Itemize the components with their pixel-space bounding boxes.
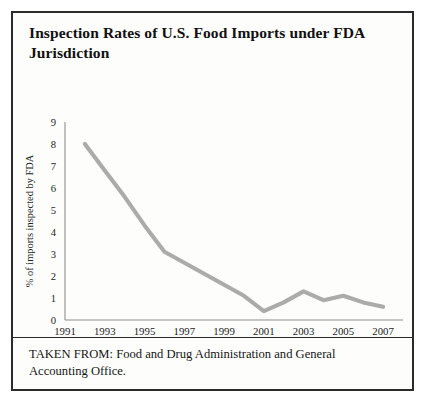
y-tick-label: 2	[51, 271, 56, 282]
line-chart: 0123456789 19911993199519971999200120032…	[13, 71, 412, 337]
x-tick-label: 2001	[253, 325, 275, 337]
y-tick-label: 4	[51, 227, 57, 238]
y-tick-label: 1	[51, 293, 56, 304]
figure-frame: Inspection Rates of U.S. Food Imports un…	[11, 11, 414, 391]
x-tick-label: 1991	[54, 325, 76, 337]
y-tick-label: 3	[51, 249, 56, 260]
y-axis-title: % of imports inspected by FDA	[24, 154, 35, 287]
x-tick-label: 1993	[94, 325, 116, 337]
x-tick-label: 2005	[333, 325, 355, 337]
y-tick-label: 8	[51, 139, 56, 150]
y-tick-label: 9	[51, 117, 56, 128]
chart-svg: 0123456789 19911993199519971999200120032…	[13, 71, 412, 337]
x-tick-label: 1999	[213, 325, 235, 337]
page-title: Inspection Rates of U.S. Food Imports un…	[29, 23, 369, 64]
y-axis-tick-labels: 0123456789	[51, 117, 57, 326]
caption-divider	[13, 337, 412, 338]
y-tick-label: 7	[51, 161, 56, 172]
x-tick-label: 1995	[134, 325, 156, 337]
data-series-line	[85, 144, 383, 311]
y-tick-label: 6	[51, 183, 56, 194]
y-tick-label: 5	[51, 205, 56, 216]
x-tick-label: 2003	[293, 325, 315, 337]
x-axis-tick-labels: 199119931995199719992001200320052007	[54, 325, 394, 337]
source-caption: TAKEN FROM: Food and Drug Administration…	[29, 346, 389, 381]
x-tick-label: 1997	[173, 325, 195, 337]
x-tick-label: 2007	[372, 325, 394, 337]
